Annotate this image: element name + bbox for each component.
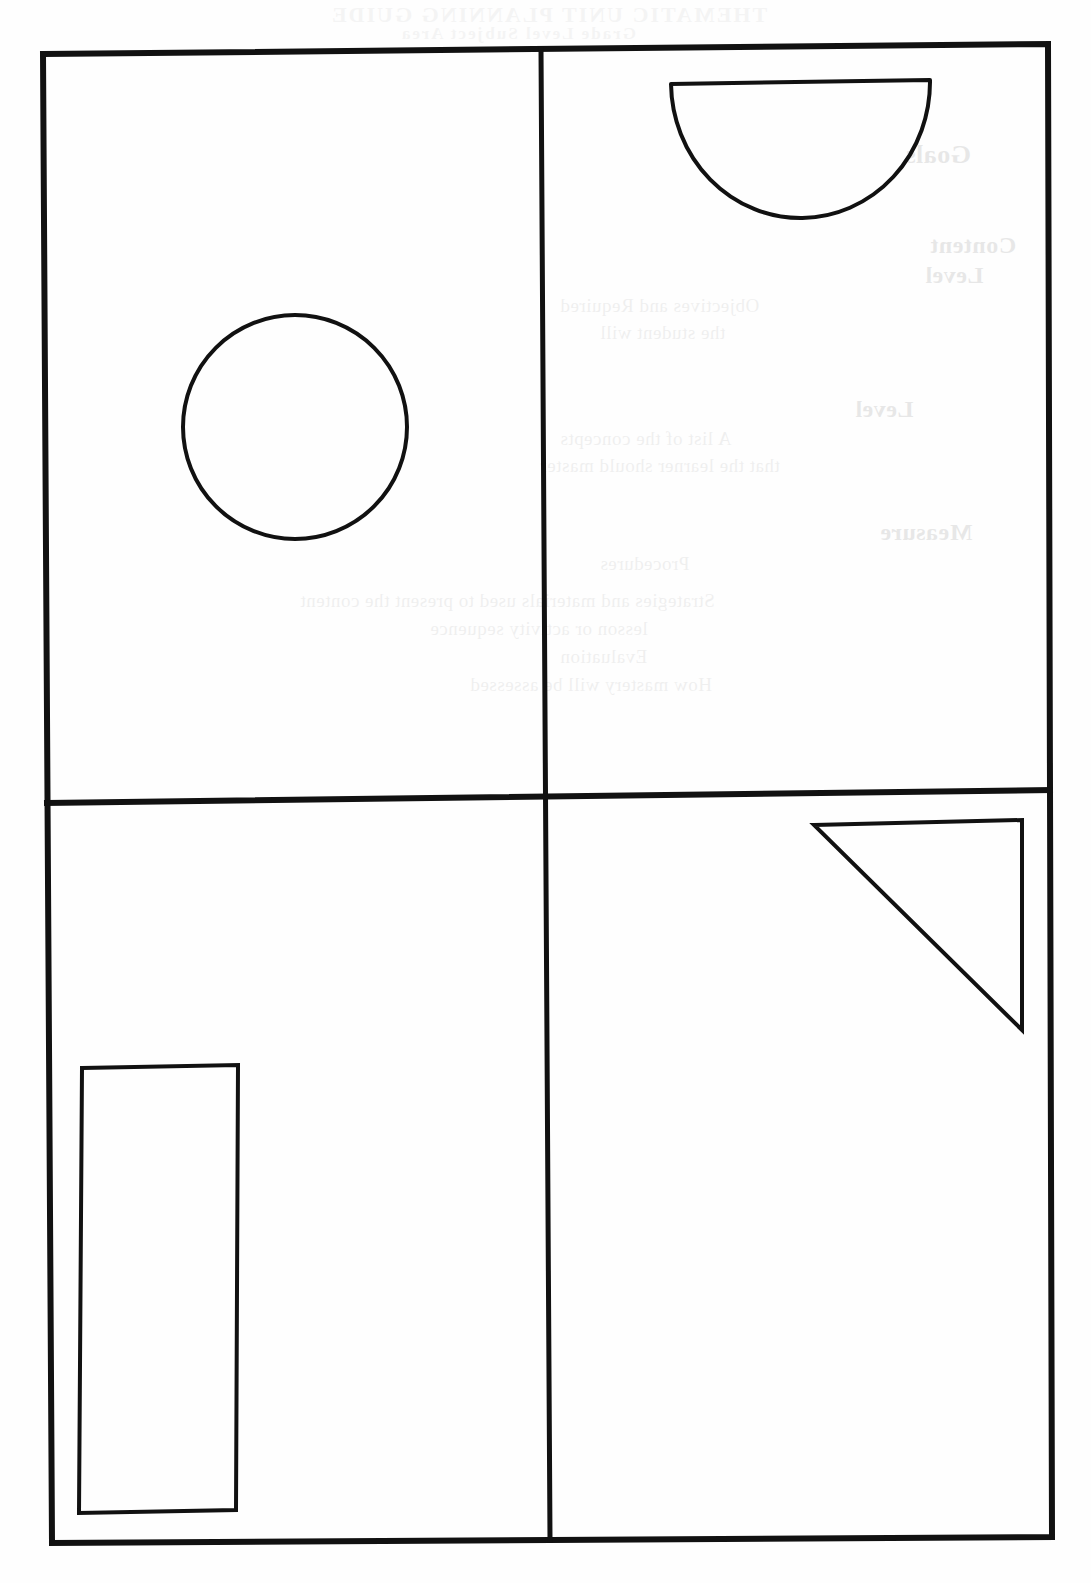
triangle-shape — [814, 820, 1022, 1030]
circle-shape — [183, 315, 407, 539]
worksheet-page: THEMATIC UNIT PLANNING GUIDE Grade Level… — [0, 0, 1091, 1583]
rectangle-shape — [79, 1065, 238, 1513]
horizontal-divider — [47, 790, 1050, 803]
drawing-canvas — [0, 0, 1091, 1583]
semicircle-shape — [671, 80, 930, 218]
